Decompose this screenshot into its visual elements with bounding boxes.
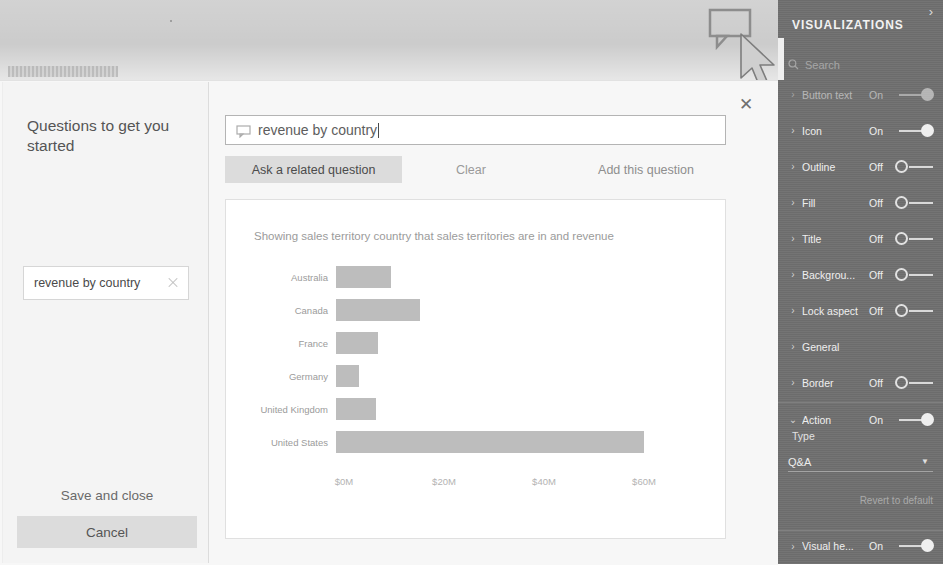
chevron-right-icon[interactable]: › bbox=[784, 541, 802, 552]
close-x-icon[interactable] bbox=[166, 276, 180, 290]
chevron-right-icon[interactable]: › bbox=[784, 269, 802, 280]
format-row-toggle[interactable] bbox=[895, 160, 935, 174]
banner-speck bbox=[170, 20, 172, 22]
chart-bar-row[interactable]: Canada bbox=[226, 299, 420, 321]
chart-bar-row[interactable]: Australia bbox=[226, 266, 391, 288]
format-row-toggle[interactable] bbox=[895, 232, 935, 246]
suggestions-heading: Questions to get you started bbox=[27, 116, 192, 156]
chart-bar-row[interactable]: United Kingdom bbox=[226, 398, 376, 420]
banner-ghost-label bbox=[8, 66, 118, 77]
format-row-title[interactable]: ›TitleOff bbox=[778, 222, 943, 255]
panel-left-notch bbox=[778, 38, 784, 80]
chart-x-axis: $0M$20M$40M$60M bbox=[226, 476, 727, 494]
format-row-label: Backgrou... bbox=[802, 269, 869, 281]
format-row-outline[interactable]: ›OutlineOff bbox=[778, 150, 943, 183]
chevron-right-icon[interactable]: › bbox=[784, 377, 802, 388]
revenue-by-country-bar-chart[interactable]: AustraliaCanadaFranceGermanyUnited Kingd… bbox=[226, 260, 727, 530]
cancel-button[interactable]: Cancel bbox=[17, 516, 197, 548]
chevron-down-icon[interactable]: ▼ bbox=[921, 457, 929, 466]
visual-header-toggle[interactable] bbox=[895, 539, 935, 553]
chart-bar[interactable] bbox=[336, 398, 376, 420]
save-and-close-button[interactable]: Save and close bbox=[17, 480, 197, 510]
close-dialog-button[interactable]: ✕ bbox=[733, 91, 759, 117]
search-placeholder: Search bbox=[805, 59, 840, 71]
qna-work-pane: ✕ revenue by country Ask a related quest… bbox=[209, 82, 776, 563]
panel-title: VISUALIZATIONS bbox=[792, 18, 904, 32]
chevron-right-icon[interactable]: › bbox=[784, 125, 802, 136]
visual-header-row[interactable]: › Visual he... On bbox=[778, 530, 943, 561]
format-row-state: Off bbox=[869, 233, 895, 245]
chart-bar-row[interactable]: United States bbox=[226, 431, 644, 453]
chart-bar[interactable] bbox=[336, 365, 359, 387]
qna-result-card: Showing sales territory country that sal… bbox=[225, 199, 726, 539]
chart-bar[interactable] bbox=[336, 332, 378, 354]
action-type-label: Type bbox=[792, 430, 815, 442]
revert-to-default-link[interactable]: Revert to default bbox=[778, 495, 933, 506]
speech-bubble-icon bbox=[236, 124, 252, 137]
format-row-icon[interactable]: ›IconOn bbox=[778, 114, 943, 147]
ask-a-related-question-button[interactable]: Ask a related question bbox=[225, 156, 402, 183]
format-row-toggle[interactable] bbox=[895, 413, 935, 427]
chart-category-label: Australia bbox=[226, 272, 336, 283]
chart-category-label: France bbox=[226, 338, 336, 349]
chart-bar-row[interactable]: Germany bbox=[226, 365, 359, 387]
chart-bar[interactable] bbox=[336, 431, 644, 453]
search-icon bbox=[788, 56, 799, 74]
visual-header-label: Visual he... bbox=[802, 540, 869, 552]
question-action-bar: Ask a related question Clear Add this qu… bbox=[225, 156, 726, 183]
chevron-right-icon[interactable]: › bbox=[784, 233, 802, 244]
format-row-state: On bbox=[869, 89, 895, 101]
format-row-toggle[interactable] bbox=[895, 88, 935, 102]
qna-speech-bubble-icon[interactable] bbox=[706, 6, 756, 50]
chart-bar-row[interactable]: France bbox=[226, 332, 378, 354]
chart-x-tick-label: $60M bbox=[632, 476, 656, 487]
format-row-toggle[interactable] bbox=[895, 304, 935, 318]
chart-x-tick-label: $20M bbox=[432, 476, 456, 487]
chevron-right-icon[interactable]: › bbox=[784, 89, 802, 100]
format-row-toggle[interactable] bbox=[895, 124, 935, 138]
suggestions-pane: Questions to get you started revenue by … bbox=[3, 82, 209, 563]
format-row-state: Off bbox=[869, 305, 895, 317]
format-row-state: On bbox=[869, 414, 895, 426]
add-this-question-button[interactable]: Add this question bbox=[566, 156, 726, 183]
format-row-state: Off bbox=[869, 161, 895, 173]
question-input-value: revenue by country bbox=[258, 122, 377, 138]
chart-bar[interactable] bbox=[336, 299, 420, 321]
text-caret bbox=[378, 123, 379, 138]
clear-button[interactable]: Clear bbox=[411, 156, 531, 183]
action-type-select[interactable]: Q&A ▼ bbox=[788, 452, 933, 472]
format-row-border[interactable]: ›BorderOff bbox=[778, 366, 943, 399]
format-row-label: Action bbox=[802, 414, 869, 426]
chart-bar[interactable] bbox=[336, 266, 391, 288]
chevron-right-icon[interactable]: › bbox=[784, 197, 802, 208]
chart-x-tick-label: $0M bbox=[335, 476, 353, 487]
search-input[interactable]: Search bbox=[788, 56, 933, 74]
format-row-toggle[interactable] bbox=[895, 196, 935, 210]
format-row-button-text[interactable]: ›Button textOn bbox=[778, 78, 943, 111]
format-row-label: Icon bbox=[802, 125, 869, 137]
question-input[interactable]: revenue by country bbox=[225, 115, 726, 145]
format-row-label: General bbox=[802, 341, 869, 353]
action-type-value: Q&A bbox=[788, 456, 921, 468]
format-row-fill[interactable]: ›FillOff bbox=[778, 186, 943, 219]
chevron-down-icon[interactable]: ⌄ bbox=[784, 414, 802, 425]
format-row-label: Border bbox=[802, 377, 869, 389]
format-row-toggle[interactable] bbox=[895, 376, 935, 390]
format-row-toggle[interactable] bbox=[895, 268, 935, 282]
format-row-lock-aspect[interactable]: ›Lock aspectOff bbox=[778, 294, 943, 327]
visualizations-header: VISUALIZATIONS bbox=[778, 12, 943, 38]
result-subtitle: Showing sales territory country that sal… bbox=[254, 230, 614, 242]
chevron-right-icon[interactable]: › bbox=[929, 4, 933, 19]
suggestion-chip[interactable]: revenue by country bbox=[23, 266, 189, 300]
format-row-label: Button text bbox=[802, 89, 869, 101]
format-row-general[interactable]: ›General bbox=[778, 330, 943, 363]
chevron-right-icon[interactable]: › bbox=[784, 341, 802, 352]
chevron-right-icon[interactable]: › bbox=[784, 305, 802, 316]
suggestion-chip-label: revenue by country bbox=[34, 276, 166, 290]
visualizations-panel: VISUALIZATIONS › Search ›Button textOn›I… bbox=[778, 0, 943, 564]
format-row-backgrou[interactable]: ›Backgrou...Off bbox=[778, 258, 943, 291]
format-row-label: Lock aspect bbox=[802, 305, 869, 317]
format-row-state: On bbox=[869, 125, 895, 137]
chart-category-label: Germany bbox=[226, 371, 336, 382]
chevron-right-icon[interactable]: › bbox=[784, 161, 802, 172]
